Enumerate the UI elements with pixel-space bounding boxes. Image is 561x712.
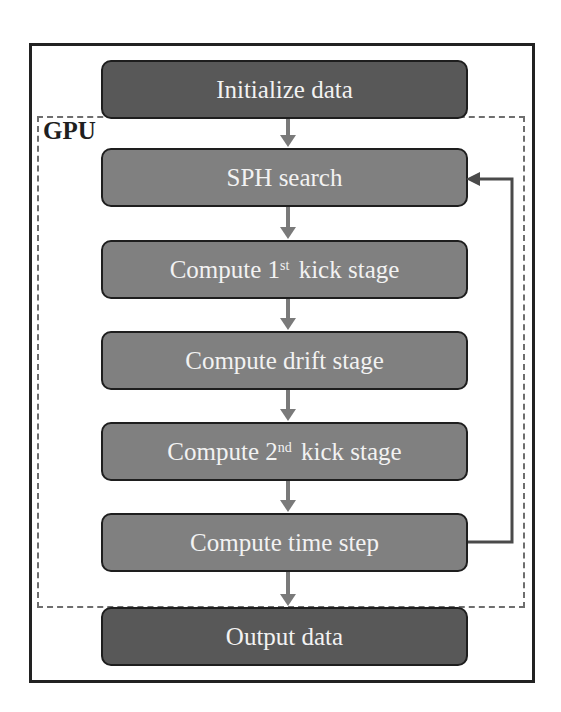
step-label: Compute drift stage (185, 347, 384, 375)
step-label-suffix: kick stage (292, 256, 399, 284)
gpu-region-label: GPU (43, 118, 96, 143)
step-label: Compute time step (190, 529, 379, 557)
arrow-down-icon (282, 481, 294, 513)
arrow-down-icon (282, 119, 294, 148)
step-initialize-data: Initialize data (101, 60, 468, 119)
step-label: SPH search (227, 164, 343, 192)
step-label: Initialize data (216, 76, 353, 104)
arrow-down-icon (282, 390, 294, 422)
step-ordinal-suffix: nd (278, 440, 292, 456)
step-label: Output data (226, 623, 343, 651)
arrow-down-icon (282, 207, 294, 240)
step-compute-first-kick: Compute 1st kick stage (101, 240, 468, 299)
step-compute-time-step: Compute time step (101, 513, 468, 572)
step-label: Compute 2 (167, 438, 277, 466)
step-compute-second-kick: Compute 2nd kick stage (101, 422, 468, 481)
step-label-suffix: kick stage (295, 438, 402, 466)
step-label: Compute 1 (170, 256, 280, 284)
step-output-data: Output data (101, 607, 468, 666)
arrow-down-icon (282, 299, 294, 331)
arrow-down-icon (282, 572, 294, 607)
step-ordinal-suffix: st (280, 258, 289, 274)
loop-back-arrow-icon (460, 165, 520, 555)
step-compute-drift: Compute drift stage (101, 331, 468, 390)
step-sph-search: SPH search (101, 148, 468, 207)
